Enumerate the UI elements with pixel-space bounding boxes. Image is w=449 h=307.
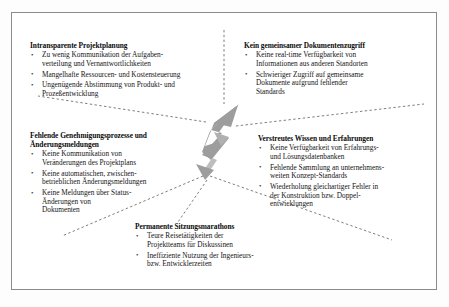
list-item-text: Keine real-time Verfügbarkeit von Inform… — [256, 50, 368, 68]
block-intransparente-projektplanung: Intransparente Projektplanung •Zu wenig … — [30, 41, 212, 99]
list-item: •Keine automatischen, zwischen- betriebl… — [30, 170, 200, 187]
list-item-text: Keine Meldungen über Status- Änderungen … — [42, 188, 131, 214]
bullet-icon: • — [259, 163, 261, 172]
list-item: •Schwieriger Zugriff auf gemeinsame Doku… — [244, 71, 424, 97]
list-item-text: Mangelhafte Ressourcen- und Kostensteuer… — [42, 70, 180, 79]
list-item-text: Keine automatischen, zwischen- betriebli… — [42, 169, 146, 187]
list-item: •Keine real-time Verfügbarkeit von Infor… — [244, 51, 424, 68]
list-item-text: Keine Kommunikation von Veränderungen de… — [42, 149, 136, 167]
block-title: Kein gemeinsamer Dokumentenzugriff — [244, 41, 424, 50]
list-item: •Mangelhafte Ressourcen- und Kostensteue… — [30, 71, 212, 80]
block-verstreutes-wissen-und-erfahrungen: Verstreutes Wissen und Erfahrungen •Kein… — [258, 134, 426, 209]
block-title: Verstreutes Wissen und Erfahrungen — [258, 134, 426, 143]
bullet-list: •Keine Kommunikation von Veränderungen d… — [30, 150, 200, 215]
block-title: Permanente Sitzungsmarathons — [135, 222, 315, 231]
list-item-text: Fehlende Sammlung an unternehmens- weite… — [270, 163, 384, 181]
list-item: •Keine Kommunikation von Veränderungen d… — [30, 150, 200, 167]
bullet-icon: • — [31, 189, 33, 198]
list-item-text: Keine Verfügbarkeit von Erfahrungs- und … — [270, 143, 379, 161]
bullet-icon: • — [136, 251, 138, 260]
bullet-icon: • — [245, 70, 247, 79]
block-title: Fehlende Genehmigungsprozesse und Änderu… — [30, 131, 200, 149]
block-fehlende-genehmigungsprozesse: Fehlende Genehmigungsprozesse und Änderu… — [30, 131, 200, 215]
bullet-icon: • — [31, 51, 33, 60]
bullet-list: •Zu wenig Kommunikation der Aufgaben- ve… — [30, 51, 212, 98]
list-item: •Keine Meldungen über Status- Änderungen… — [30, 189, 200, 215]
list-item-text: Teure Reisetätigkeiten der Projektteams … — [147, 231, 233, 249]
list-item: •Zu wenig Kommunikation der Aufgaben- ve… — [30, 51, 212, 68]
bullet-list: •Keine Verfügbarkeit von Erfahrungs- und… — [258, 144, 426, 209]
list-item-text: Ungenügende Abstimmung von Produkt- und … — [42, 80, 175, 98]
list-item-text: Ineffiziente Nutzung der Ingenieurs- bzw… — [147, 251, 254, 269]
bullet-icon: • — [259, 182, 261, 191]
list-item: •Keine Verfügbarkeit von Erfahrungs- und… — [258, 144, 426, 161]
bullet-icon: • — [245, 51, 247, 60]
block-title: Intransparente Projektplanung — [30, 41, 212, 50]
bullet-icon: • — [31, 150, 33, 159]
list-item: •Wiederholung gleichartiger Fehler in de… — [258, 183, 426, 209]
list-item: •Ineffiziente Nutzung der Ingenieurs- bz… — [135, 252, 315, 269]
bullet-list: •Keine real-time Verfügbarkeit von Infor… — [244, 51, 424, 96]
block-permanente-sitzungsmarathons: Permanente Sitzungsmarathons •Teure Reis… — [135, 222, 315, 269]
bullet-icon: • — [31, 81, 33, 90]
bullet-icon: • — [136, 232, 138, 241]
bullet-list: •Teure Reisetätigkeiten der Projektteams… — [135, 232, 315, 269]
bullet-icon: • — [31, 169, 33, 178]
bullet-icon: • — [259, 144, 261, 153]
diagram-canvas: Intransparente Projektplanung •Zu wenig … — [0, 0, 449, 307]
list-item: •Teure Reisetätigkeiten der Projektteams… — [135, 232, 315, 249]
list-item: •Fehlende Sammlung an unternehmens- weit… — [258, 164, 426, 181]
list-item-text: Zu wenig Kommunikation der Aufgaben- ver… — [42, 50, 163, 68]
bullet-icon: • — [31, 70, 33, 79]
list-item-text: Schwieriger Zugriff auf gemeinsame Dokum… — [256, 70, 363, 96]
list-item-text: Wiederholung gleichartiger Fehler in der… — [270, 182, 378, 208]
block-kein-gemeinsamer-dokumentenzugriff: Kein gemeinsamer Dokumentenzugriff •Kein… — [244, 41, 424, 96]
list-item: •Ungenügende Abstimmung von Produkt- und… — [30, 81, 212, 98]
